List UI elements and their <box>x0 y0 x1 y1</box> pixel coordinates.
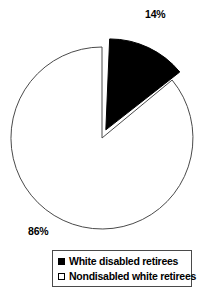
legend-label-white-disabled-retirees: White disabled retirees <box>69 256 178 267</box>
data-label-white-slice: 86% <box>28 225 48 237</box>
pie-svg <box>0 0 205 240</box>
pie-chart-figure: 14% 86% White disabled retirees Nondisab… <box>0 0 205 301</box>
legend-item-nondisabled-white-retirees[interactable]: Nondisabled white retirees <box>58 269 191 284</box>
data-label-black-slice: 14% <box>145 8 165 20</box>
legend-swatch-hollow-square <box>58 273 65 280</box>
chart-legend: White disabled retirees Nondisabled whit… <box>52 250 192 287</box>
legend-label-nondisabled-white-retirees: Nondisabled white retirees <box>69 271 196 282</box>
legend-swatch-filled-square <box>58 258 65 265</box>
pie-plot-area <box>0 0 205 240</box>
legend-item-white-disabled-retirees[interactable]: White disabled retirees <box>58 254 191 269</box>
